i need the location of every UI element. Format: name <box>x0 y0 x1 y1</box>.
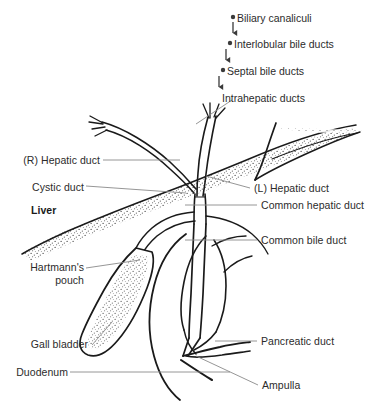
label-common-hepatic-duct: Common hepatic duct <box>261 199 364 212</box>
cystic-duct <box>136 212 268 256</box>
label-left-hepatic-duct: (L) Hepatic duct <box>254 182 329 195</box>
cascade-item-interlobular-bile-ducts: Interlobular bile ducts <box>234 38 334 50</box>
cascade-label-0: Biliary canaliculi <box>237 12 312 24</box>
leader-ampulla <box>196 356 258 385</box>
cascade-item-biliary-canaliculi: Biliary canaliculi <box>237 12 312 24</box>
label-hartmanns-pouch-line1: Hartmann's <box>0 261 84 274</box>
cascade-item-septal-bile-ducts: Septal bile ducts <box>227 65 304 77</box>
cascade-item-intrahepatic-ducts: Intrahepatic ducts <box>222 92 305 104</box>
cascade-label-2: Septal bile ducts <box>227 65 304 77</box>
label-ampulla: Ampulla <box>262 379 300 392</box>
label-gall-bladder: Gall bladder <box>0 338 88 351</box>
cascade-label-3: Intrahepatic ducts <box>222 92 305 104</box>
label-liver: Liver <box>31 204 56 217</box>
gall-bladder <box>80 248 153 356</box>
common-bile-duct <box>183 224 206 356</box>
right-hepatic-duct <box>89 116 196 193</box>
cascade-label-1: Interlobular bile ducts <box>234 38 334 50</box>
label-right-hepatic-duct: (R) Hepatic duct <box>0 154 100 167</box>
label-pancreatic-duct: Pancreatic duct <box>261 335 334 348</box>
common-hepatic-duct <box>194 194 206 224</box>
label-common-bile-duct: Common bile duct <box>261 234 346 247</box>
label-hartmanns-pouch-line2: pouch <box>0 274 84 287</box>
label-cystic-duct: Cystic duct <box>0 181 84 194</box>
label-duodenum: Duodenum <box>0 366 68 379</box>
biliary-anatomy-figure: Biliary canaliculi Interlobular bile duc… <box>0 0 381 413</box>
